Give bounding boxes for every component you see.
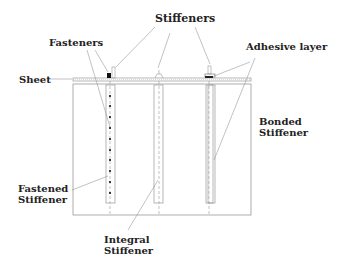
leader-lines [48,27,255,230]
integral-stiffener-section [155,70,163,78]
bonded-stiffener-strip [206,85,215,203]
label-integral-stiffener: Integral Stiffener [104,234,153,256]
fastened-stiffener-section [107,67,115,78]
panel-outline [73,84,251,215]
label-adhesive-layer: Adhesive layer [246,41,327,52]
stiffened-panel-diagram: Stiffeners Fasteners Adhesive layer Shee… [0,0,351,269]
fastened-stiffener-strip [106,85,115,203]
sheet-section [73,78,251,81]
label-stiffeners: Stiffeners [155,13,215,24]
label-sheet: Sheet [19,74,51,85]
label-fastened-stiffener: Fastened Stiffener [18,183,68,205]
stiffener-centerlines [110,81,209,215]
label-fasteners: Fasteners [49,37,103,48]
integral-stiffener-strip [154,85,163,203]
bonded-stiffener-section [205,66,215,78]
label-bonded-stiffener: Bonded Stiffener [259,116,308,138]
fastener-dots [109,95,111,194]
